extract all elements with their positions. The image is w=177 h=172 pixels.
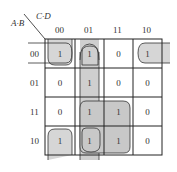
cell-r3-c2: 1: [116, 136, 121, 146]
col-variable-label: C·D: [36, 11, 51, 21]
row-header-00: 00: [30, 49, 40, 59]
row-header-10: 10: [30, 136, 40, 146]
cell-r2-c1: 1: [87, 107, 92, 117]
cell-r2-c3: 0: [145, 107, 150, 117]
cell-r2-c0: 0: [58, 107, 63, 117]
cell-r3-c1: 1: [87, 136, 92, 146]
karnaugh-map: C·D A·B 00 01 11 10 00 01 11 10 1 1 0 1 …: [0, 0, 177, 172]
cell-r3-c3: 0: [145, 136, 150, 146]
cell-r1-c1: 1: [87, 78, 92, 88]
cell-r2-c2: 1: [116, 107, 121, 117]
cell-r0-c1: 1: [87, 49, 92, 59]
row-variable-label: A·B: [10, 18, 25, 28]
cell-r0-c0: 1: [58, 49, 63, 59]
cell-r1-c0: 0: [58, 78, 63, 88]
col-header-01: 01: [84, 25, 93, 35]
row-header-11: 11: [30, 107, 39, 117]
row00-wrap-group-right: [138, 43, 170, 63]
col-header-11: 11: [113, 25, 122, 35]
cell-r0-c3: 1: [145, 49, 150, 59]
row-header-01: 01: [30, 78, 39, 88]
col-header-00: 00: [55, 25, 65, 35]
cell-r1-c2: 0: [116, 78, 121, 88]
cell-r0-c2: 0: [116, 49, 121, 59]
cell-r3-c0: 1: [58, 136, 63, 146]
col-header-10: 10: [142, 25, 152, 35]
cell-r1-c3: 0: [145, 78, 150, 88]
